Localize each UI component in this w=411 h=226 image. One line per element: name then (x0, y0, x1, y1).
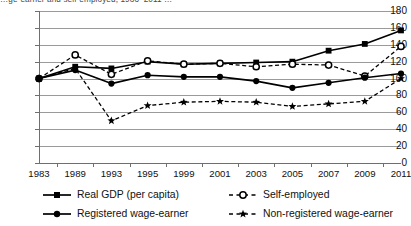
legend-label: Real GDP (per capita) (77, 189, 179, 201)
clipped-caption-text: …ge-earner and self-employed, 1983–2011 … (0, 0, 407, 5)
x-tick-label: 2007 (318, 169, 339, 179)
data-point-marker (145, 72, 151, 78)
x-tick-label: 2011 (391, 169, 411, 179)
data-point-marker (289, 61, 295, 67)
x-tick-label: 2003 (246, 169, 267, 179)
data-point-marker (253, 78, 259, 84)
data-point-marker (180, 98, 188, 106)
data-point-marker (361, 97, 369, 105)
legend-label: Self-employed (263, 189, 329, 201)
data-point-marker (326, 80, 332, 86)
data-point-marker (108, 71, 114, 77)
data-point-marker (181, 61, 187, 67)
data-point-marker (398, 28, 404, 34)
x-tick-label: 2009 (354, 169, 375, 179)
legend-marker-filled-square-icon (42, 189, 72, 201)
data-point-marker (217, 60, 223, 66)
legend-marker-filled-circle-icon (42, 208, 72, 220)
series-plot-area (39, 11, 401, 163)
data-point-marker (288, 102, 296, 110)
data-point-marker (108, 81, 114, 87)
data-point-marker (326, 48, 332, 54)
x-tick-mark (238, 163, 239, 167)
legend-item[interactable]: Non-registered wage-earner (228, 205, 393, 222)
legend-label: Non-registered wage-earner (263, 208, 393, 220)
data-point-marker (253, 64, 259, 70)
data-point-marker (72, 52, 78, 58)
legend-item[interactable]: Registered wage-earner (42, 205, 188, 222)
data-point-marker (144, 101, 152, 109)
x-tick-mark (347, 163, 348, 167)
x-tick-mark (93, 163, 94, 167)
x-tick-label: 1989 (65, 169, 86, 179)
x-tick-mark (130, 163, 131, 167)
x-tick-mark (166, 163, 167, 167)
series-non-registered-wage-earner (35, 64, 405, 124)
x-tick-label: 2005 (282, 169, 303, 179)
x-tick-label: 2001 (209, 169, 230, 179)
legend-item[interactable]: Real GDP (per capita) (42, 186, 179, 203)
data-point-marker (216, 97, 224, 105)
data-point-marker (252, 98, 260, 106)
data-point-marker (398, 43, 404, 49)
data-point-marker (325, 100, 333, 108)
legend-label: Registered wage-earner (77, 208, 188, 220)
data-point-marker (181, 74, 187, 80)
x-tick-mark (274, 163, 275, 167)
x-tick-label: 1993 (101, 169, 122, 179)
legend-marker-filled-star-icon (228, 208, 258, 220)
x-tick-mark (57, 163, 58, 167)
series-real-gdp (36, 28, 404, 82)
data-point-marker (217, 74, 223, 80)
data-point-marker (109, 66, 115, 72)
data-point-marker (362, 75, 368, 81)
legend-item[interactable]: Self-employed (228, 186, 329, 203)
x-tick-label: 1995 (137, 169, 158, 179)
data-point-marker (289, 85, 295, 91)
x-tick-label: 1999 (173, 169, 194, 179)
data-point-marker (107, 117, 115, 125)
data-point-marker (326, 62, 332, 68)
x-tick-mark (311, 163, 312, 167)
x-tick-mark (202, 163, 203, 167)
data-point-marker (362, 41, 368, 47)
x-tick-mark (383, 163, 384, 167)
chart-legend: Real GDP (per capita)Self-employedRegist… (0, 186, 407, 226)
legend-marker-open-circle-icon (228, 189, 258, 201)
data-point-marker (145, 58, 151, 64)
x-tick-label: 1983 (28, 169, 49, 179)
series-line (39, 30, 401, 78)
